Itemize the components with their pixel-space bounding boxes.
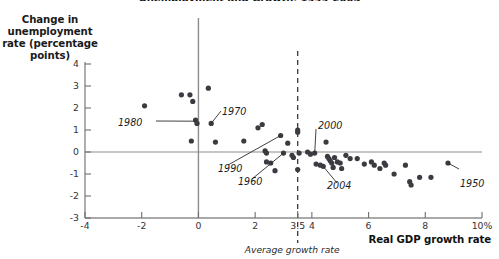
- y-tick-label: 1: [51, 124, 79, 135]
- data-point: [362, 162, 367, 167]
- data-point: [428, 175, 433, 180]
- data-point: [377, 166, 382, 171]
- data-point: [331, 165, 336, 170]
- data-point: [409, 182, 414, 187]
- data-point: [329, 160, 334, 165]
- data-point: [291, 155, 296, 160]
- data-point: [179, 92, 184, 97]
- data-point: [295, 130, 300, 135]
- x-tick-label: 4: [297, 220, 327, 231]
- x-tick-label: 6: [354, 220, 384, 231]
- data-point: [142, 103, 147, 108]
- y-tick-label: -2: [51, 190, 79, 201]
- annotation-leader-line: [448, 163, 459, 169]
- annotation-1980: 1980: [118, 117, 142, 128]
- data-point: [190, 99, 195, 104]
- annotation-leader-line: [315, 129, 316, 153]
- chart-title: Unemployment and Growth, 1949-2005: [0, 0, 499, 1]
- x-tick-label: -4: [70, 220, 100, 231]
- x-tick-label: 8: [410, 220, 440, 231]
- data-point: [272, 168, 277, 173]
- data-point: [285, 141, 290, 146]
- scatter-chart: Unemployment and Growth, 1949-2005 Chang…: [0, 0, 499, 259]
- data-point: [355, 156, 360, 161]
- data-point: [332, 155, 337, 160]
- data-point: [372, 163, 377, 168]
- data-point: [338, 160, 343, 165]
- data-point: [264, 151, 269, 156]
- y-tick-label: 0: [51, 146, 79, 157]
- data-point: [297, 151, 302, 156]
- annotation-leader-line: [228, 136, 281, 166]
- data-point: [295, 167, 300, 172]
- annotation-leader-line: [211, 111, 221, 123]
- data-point: [445, 160, 450, 165]
- data-point: [260, 122, 265, 127]
- annotation-2000: 2000: [318, 120, 342, 131]
- data-point: [206, 86, 211, 91]
- average-growth-rate-label: Average growth rate: [245, 244, 340, 255]
- y-tick-label: -1: [51, 168, 79, 179]
- annotation-1950: 1950: [460, 178, 484, 189]
- data-point: [241, 138, 246, 143]
- data-point: [323, 140, 328, 145]
- y-tick-label: 4: [51, 58, 79, 69]
- data-point: [417, 175, 422, 180]
- x-tick-label: 10%: [467, 220, 497, 231]
- data-point: [213, 140, 218, 145]
- x-tick-label: -2: [127, 220, 157, 231]
- annotation-1960: 1960: [238, 176, 262, 187]
- data-point: [255, 125, 260, 130]
- x-axis-title: Real GDP growth rate: [368, 234, 491, 245]
- annotation-1970: 1970: [222, 106, 246, 117]
- data-point: [343, 153, 348, 158]
- y-tick-label: 2: [51, 102, 79, 113]
- annotation-1990: 1990: [218, 163, 242, 174]
- y-tick-label: 3: [51, 80, 79, 91]
- data-point: [339, 166, 344, 171]
- annotation-2004: 2004: [327, 180, 351, 191]
- x-tick-label: 0: [183, 220, 213, 231]
- data-point: [348, 156, 353, 161]
- y-axis-title: Change in unemployment rate (percentage …: [0, 14, 100, 62]
- data-point: [403, 163, 408, 168]
- x-tick-label: 2: [240, 220, 270, 231]
- data-point: [383, 163, 388, 168]
- data-point: [391, 171, 396, 176]
- data-point: [187, 92, 192, 97]
- data-point: [189, 138, 194, 143]
